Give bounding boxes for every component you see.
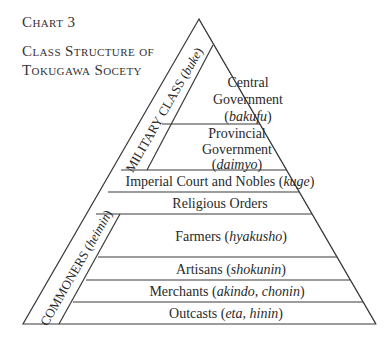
- svg-text:(bakufu): (bakufu): [224, 109, 272, 125]
- level-merchants: Merchants (akindo, chonin): [149, 284, 304, 300]
- level-farmers: Farmers (hyakusho): [175, 229, 287, 245]
- svg-text:Central: Central: [227, 75, 268, 90]
- class-pyramid: MILITARY CLASS (buke) COMMONERS (heimin)…: [0, 0, 392, 341]
- commoners-label: COMMONERS (heimin): [37, 207, 116, 328]
- svg-text:Government: Government: [213, 92, 283, 107]
- level-imperial-court: Imperial Court and Nobles (kuge): [126, 174, 315, 190]
- svg-text:Government: Government: [202, 142, 272, 157]
- level-provincial-government: Provincial Government (daimyo): [202, 126, 272, 173]
- military-class-label: MILITARY CLASS (buke): [122, 45, 206, 175]
- level-religious-orders: Religious Orders: [172, 196, 267, 211]
- svg-text:Provincial: Provincial: [208, 126, 266, 141]
- svg-text:(daimyo): (daimyo): [212, 157, 263, 173]
- level-outcasts: Outcasts (eta, hinin): [169, 306, 283, 322]
- level-artisans: Artisans (shokunin): [176, 262, 286, 278]
